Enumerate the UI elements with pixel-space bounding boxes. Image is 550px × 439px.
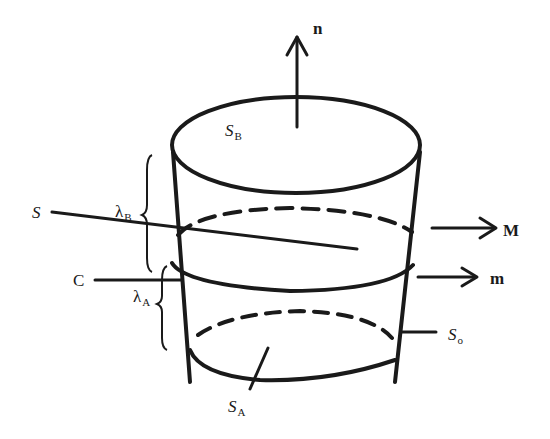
diagram-canvas: n SB S λB C λA M m So SA: [0, 0, 550, 439]
cone-drawing: [0, 0, 550, 439]
label-s-a-sub: A: [238, 406, 246, 418]
label-lambda-b-base: λ: [115, 202, 123, 221]
curve-c: [172, 263, 413, 291]
label-c: C: [73, 272, 84, 289]
label-lambda-b-sub: B: [124, 211, 131, 223]
brace-lambda-b: [142, 155, 152, 272]
label-s-o-base: S: [448, 325, 457, 344]
label-lambda-a: λA: [133, 288, 150, 305]
label-lambda-a-sub: A: [142, 296, 150, 308]
label-s-b-base: S: [225, 121, 234, 140]
right-wall: [395, 152, 420, 382]
label-s-b: SB: [225, 122, 242, 139]
label-n: n: [313, 20, 322, 37]
label-s: S: [32, 204, 41, 221]
label-lambda-a-base: λ: [133, 287, 141, 306]
label-lambda-b: λB: [115, 203, 132, 220]
label-s-a: SA: [228, 398, 245, 415]
label-m: m: [490, 270, 504, 287]
label-s-a-base: S: [228, 397, 237, 416]
bottom-back-dashed: [198, 311, 392, 338]
label-M: M: [503, 222, 519, 239]
bottom-ellipse-front: [190, 350, 395, 380]
label-s-b-sub: B: [235, 130, 242, 142]
sa-leader: [250, 348, 268, 389]
label-s-o: So: [448, 326, 463, 343]
label-s-o-sub: o: [458, 334, 464, 346]
